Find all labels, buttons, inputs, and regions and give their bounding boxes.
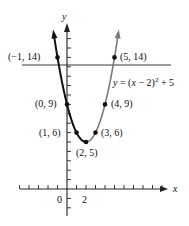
parabola-right-branch [86,35,118,142]
y-axis-arrow-icon [64,23,70,32]
point-label-2-5: (2, 5) [76,147,98,159]
point-label-5-14: (5, 14) [120,51,147,63]
right-branch-arrow-icon [115,29,121,38]
x-axis-label: x [172,183,178,194]
x-tick-label-2: 2 [82,194,87,205]
point-label-1-6: (1, 6) [39,127,61,139]
data-point [74,130,79,135]
left-branch-arrow-icon [52,29,58,38]
equation-label: y = (x − 2)2 + 5 [112,76,174,89]
data-point [93,130,98,135]
x-axis-arrow-icon [160,186,168,192]
point-label-0-9: (0, 9) [35,98,57,110]
x-tick-label-0: 0 [57,194,62,205]
data-point [84,140,89,145]
data-point [65,102,70,107]
y-axis-label: y [61,11,67,22]
point-label-neg1-14: (−1, 14) [8,51,40,63]
data-point [112,55,117,60]
point-label-4-9: (4, 9) [111,98,133,110]
data-point [103,102,108,107]
data-point [55,55,60,60]
parabola-left-branch [54,35,86,142]
x-axis [20,185,169,192]
point-label-3-6: (3, 6) [101,127,123,139]
parabola-graph: y x 0 2 (−1, 14) (0, 9) (1, 6) (2, 5) (3… [0,0,189,226]
y-axis [64,23,71,216]
